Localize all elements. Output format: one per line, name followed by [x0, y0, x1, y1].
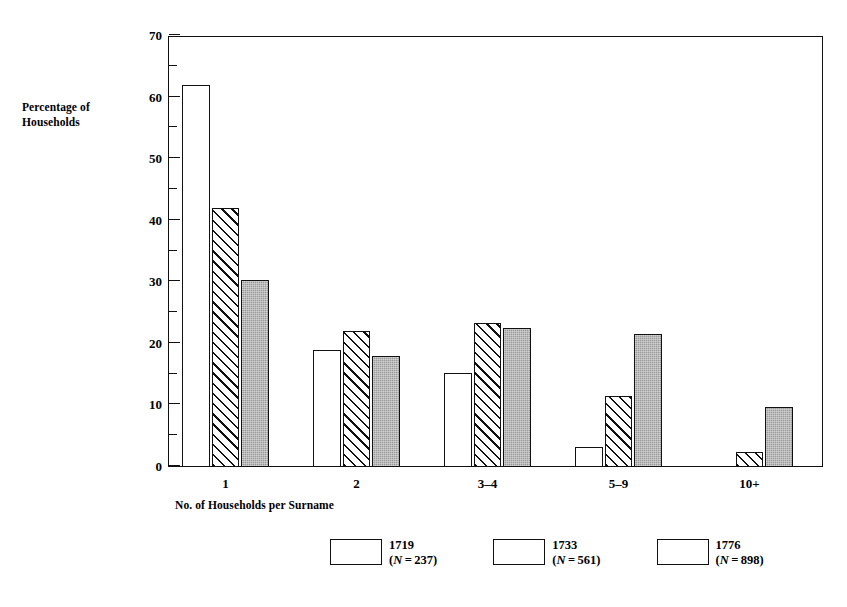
y-axis-tick-label: 20 [128, 336, 162, 352]
y-axis-tick-label: 60 [128, 90, 162, 106]
legend-series-name: 1776 [716, 538, 764, 553]
bar [343, 331, 371, 467]
legend-series-name: 1719 [389, 538, 437, 553]
bar [634, 334, 662, 467]
x-axis-tick-label: 5–9 [609, 476, 629, 492]
bar [474, 323, 502, 467]
bar [212, 208, 240, 467]
legend-series-name: 1733 [552, 538, 600, 553]
bar [372, 356, 400, 467]
legend-item: 1776(N = 898) [657, 538, 764, 567]
bar [313, 350, 341, 467]
bar [182, 85, 210, 467]
bar [736, 452, 764, 467]
legend: 1719(N = 237)1733(N = 561)1776(N = 898) [330, 538, 764, 567]
legend-label-block: 1719(N = 237) [389, 538, 437, 567]
y-axis-tick-label: 10 [128, 397, 162, 413]
legend-swatch [493, 539, 545, 565]
legend-item: 1733(N = 561) [493, 538, 600, 567]
legend-swatch [330, 539, 382, 565]
x-axis-title: No. of Households per Surname [175, 499, 334, 511]
bar [765, 407, 793, 467]
y-axis-tick-label: 50 [128, 151, 162, 167]
legend-series-count: (N = 237) [389, 553, 437, 568]
legend-series-count: (N = 898) [716, 553, 764, 568]
y-axis-tick-label: 70 [128, 28, 162, 44]
bar-chart: Percentage of Households 010203040506070… [0, 0, 847, 607]
y-axis-tick-labels: 010203040506070 [124, 36, 162, 467]
bar [503, 328, 531, 467]
bar [605, 396, 633, 467]
x-axis-tick-label: 1 [222, 476, 229, 492]
legend-label-block: 1776(N = 898) [716, 538, 764, 567]
x-axis-tick-label: 2 [353, 476, 360, 492]
legend-swatch [657, 539, 709, 565]
bar [241, 280, 269, 467]
x-axis-tick-labels: 123–45–910+ [168, 476, 823, 496]
bar [444, 373, 472, 467]
y-axis-tick-label: 0 [128, 459, 162, 475]
legend-label-block: 1733(N = 561) [552, 538, 600, 567]
bars-layer [168, 36, 823, 467]
bar [575, 447, 603, 467]
y-axis-tick-major [169, 34, 180, 35]
y-axis-tick-label: 40 [128, 213, 162, 229]
x-axis-tick-label: 10+ [739, 476, 759, 492]
x-axis-tick-label: 3–4 [478, 476, 498, 492]
y-axis-tick-label: 30 [128, 274, 162, 290]
legend-item: 1719(N = 237) [330, 538, 437, 567]
legend-series-count: (N = 561) [552, 553, 600, 568]
